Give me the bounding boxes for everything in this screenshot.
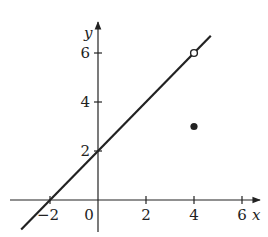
filled-circle-point [190,123,197,130]
x-tick-label: 4 [189,206,199,224]
axis-ticks [50,53,242,204]
x-tick-label: −2 [37,206,59,224]
x-axis-label: x [252,206,261,224]
y-tick-label: 6 [80,44,90,62]
x-tick-label: 2 [141,206,151,224]
open-circle-point [191,50,198,57]
y-tick-label: 2 [80,142,90,160]
origin-label: 0 [84,206,94,224]
function-graph: −22462460xy [0,0,268,237]
axes [10,22,260,232]
y-axis-label: y [83,24,93,42]
y-tick-label: 4 [80,93,90,111]
data-points [190,50,197,131]
axis-labels: −22462460xy [37,24,261,224]
x-tick-label: 6 [237,206,247,224]
